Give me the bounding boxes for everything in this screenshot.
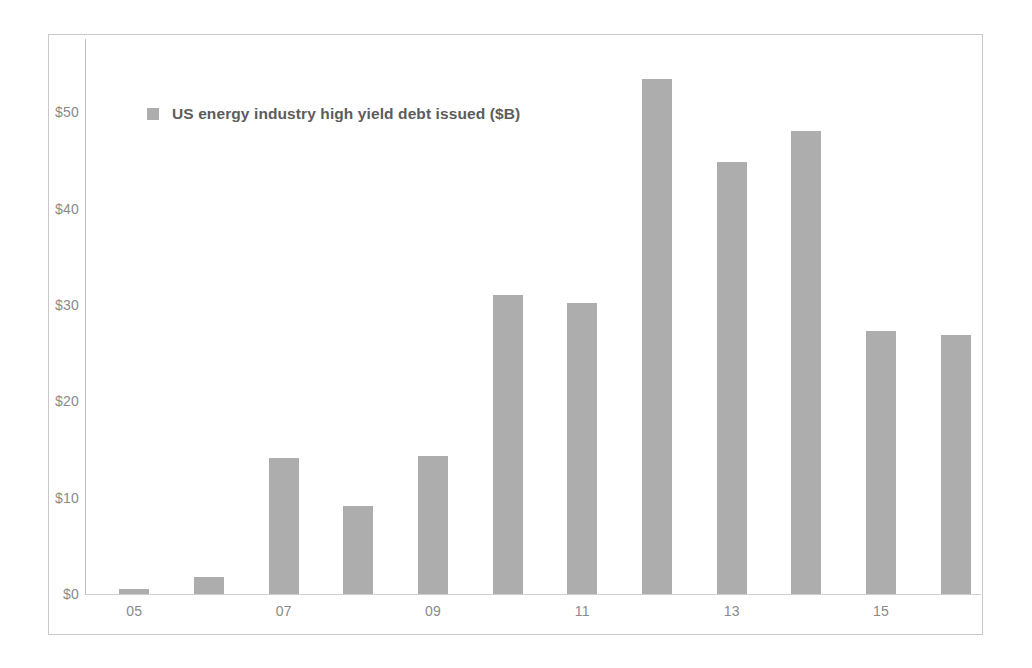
bar	[119, 589, 149, 594]
x-axis-tick-label: 09	[425, 603, 441, 619]
bar	[418, 456, 448, 594]
x-axis-tick-label: 15	[873, 603, 889, 619]
bar	[866, 331, 896, 594]
x-axis-tick-label: 07	[276, 603, 292, 619]
bar	[269, 458, 299, 594]
x-axis-tick-label: 13	[724, 603, 740, 619]
chart-figure: $0$10$20$30$40$50 050709111315 US energy…	[48, 34, 983, 635]
bar	[343, 506, 373, 594]
bar	[941, 335, 971, 594]
y-axis-tick-label: $20	[55, 393, 79, 409]
x-axis-line	[85, 594, 981, 595]
y-axis-tick-label: $10	[55, 490, 79, 506]
y-axis-tick-label: $50	[55, 104, 79, 120]
chart-legend: US energy industry high yield debt issue…	[147, 105, 520, 123]
x-axis-tick-label: 11	[575, 603, 590, 619]
x-axis-tick-label: 05	[126, 603, 142, 619]
bar	[642, 79, 672, 594]
bar	[493, 295, 523, 594]
bar	[791, 131, 821, 594]
legend-label: US energy industry high yield debt issue…	[172, 105, 520, 123]
y-axis-tick-label: $0	[63, 586, 79, 602]
plot-area: $0$10$20$30$40$50 050709111315 US energy…	[49, 35, 982, 634]
y-axis-tick-label: $30	[55, 297, 79, 313]
y-axis-line	[85, 39, 86, 595]
legend-swatch-icon	[147, 108, 159, 120]
bar	[194, 577, 224, 594]
bar	[717, 162, 747, 594]
y-axis-tick-label: $40	[55, 201, 79, 217]
bar	[567, 303, 597, 594]
